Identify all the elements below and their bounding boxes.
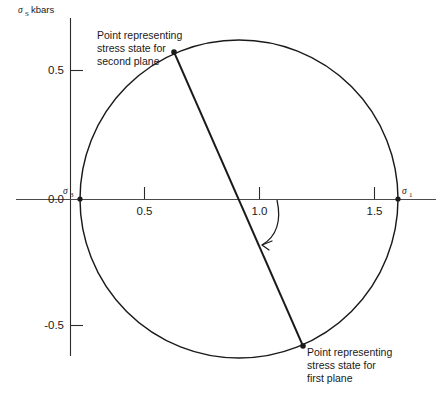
y-tick-label-0.5: 0.5 <box>48 64 64 76</box>
y-tick-label-neg0.5: -0.5 <box>44 319 64 331</box>
y-axis-title: σ S kbars <box>18 4 54 18</box>
first-plane-point-marker <box>300 343 306 349</box>
y-axis-units: kbars <box>31 4 54 15</box>
annotation-first-plane: Point representing stress state for firs… <box>307 346 392 384</box>
annotation-second-plane: Point representing stress state for seco… <box>97 29 182 67</box>
y-axis-sigma-symbol: σ <box>18 5 23 15</box>
annotation-first-plane-line-3: first plane <box>307 372 353 384</box>
sigma3-subscript: 3 <box>70 191 74 199</box>
sigma1-subscript: 1 <box>409 191 413 199</box>
sigma3-symbol: σ <box>63 186 68 196</box>
second-plane-point-marker <box>171 49 177 55</box>
y-axis-sigma-subscript: S <box>25 10 29 18</box>
sigma1-point-marker <box>395 196 400 201</box>
sigma3-point-marker <box>77 196 82 201</box>
sigma1-symbol: σ <box>402 186 407 196</box>
sigma3-label: σ 3 <box>63 186 74 199</box>
annotation-second-plane-line-1: Point representing <box>97 29 182 41</box>
angle-arc-arrowhead <box>262 241 272 250</box>
x-tick-label-1.0: 1.0 <box>252 205 268 217</box>
annotation-first-plane-line-1: Point representing <box>307 346 392 358</box>
mohr-circle-svg: 0.5 0.0 -0.5 σ S kbars 0.5 1.0 1.5 σ 3 <box>0 0 440 393</box>
annotation-first-plane-line-2: stress state for <box>307 359 376 371</box>
y-tick-label-0.0: 0.0 <box>48 193 64 205</box>
annotation-second-plane-line-2: stress state for <box>97 42 166 54</box>
x-tick-label-0.5: 0.5 <box>137 205 153 217</box>
sigma1-label: σ 1 <box>402 186 413 199</box>
x-tick-label-1.5: 1.5 <box>367 205 383 217</box>
mohr-circle-figure: 0.5 0.0 -0.5 σ S kbars 0.5 1.0 1.5 σ 3 <box>0 0 440 393</box>
annotation-second-plane-line-3: second plane <box>97 55 160 67</box>
